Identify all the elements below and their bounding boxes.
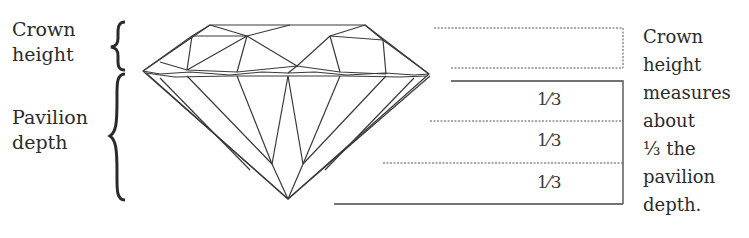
note-line: about (643, 107, 731, 135)
fraction-label-3: 1⁄3 (537, 172, 561, 192)
pavilion-brace-icon (110, 74, 125, 200)
note-line: Crown (643, 23, 731, 51)
note-line: measures (643, 79, 731, 107)
fraction-label-1: 1⁄3 (537, 89, 561, 109)
diamond-icon (143, 25, 430, 199)
fraction-label-2: 1⁄3 (537, 130, 561, 150)
note-line: depth. (643, 191, 731, 219)
diamond-diagram (0, 0, 749, 238)
crown-brace-icon (111, 22, 125, 70)
note-line: pavilion (643, 163, 731, 191)
right-note: Crown height measures about ⅓ the pavili… (643, 23, 731, 219)
note-line: height (643, 51, 731, 79)
note-line: ⅓ the (643, 135, 731, 163)
